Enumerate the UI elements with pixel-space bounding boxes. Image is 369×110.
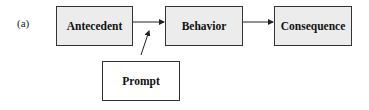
arrow-prompt-to-link	[141, 31, 149, 55]
connector-arrows	[0, 0, 369, 110]
